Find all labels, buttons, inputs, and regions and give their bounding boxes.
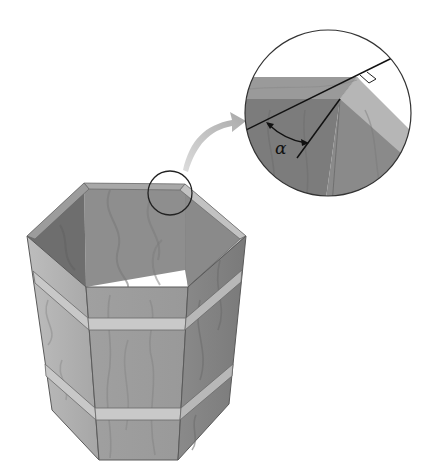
curved-arrow bbox=[183, 112, 246, 172]
bucket-diagram: α bbox=[0, 0, 433, 472]
bucket-front-face bbox=[86, 287, 188, 460]
bucket bbox=[27, 171, 246, 460]
angle-label: α bbox=[275, 138, 287, 158]
magnified-inset: α bbox=[240, 25, 420, 205]
